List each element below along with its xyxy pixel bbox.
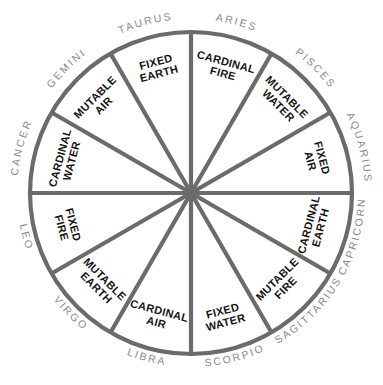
zodiac-wheel-svg: ARIESTAURUSGEMINICANCERLEOVIRGOLIBRASCOR… [0, 0, 383, 385]
sign-name-taurus: TAURUS [116, 10, 173, 36]
sign-name-aries: ARIES [215, 11, 259, 34]
zodiac-wheel-diagram: ARIESTAURUSGEMINICANCERLEOVIRGOLIBRASCOR… [0, 0, 383, 385]
